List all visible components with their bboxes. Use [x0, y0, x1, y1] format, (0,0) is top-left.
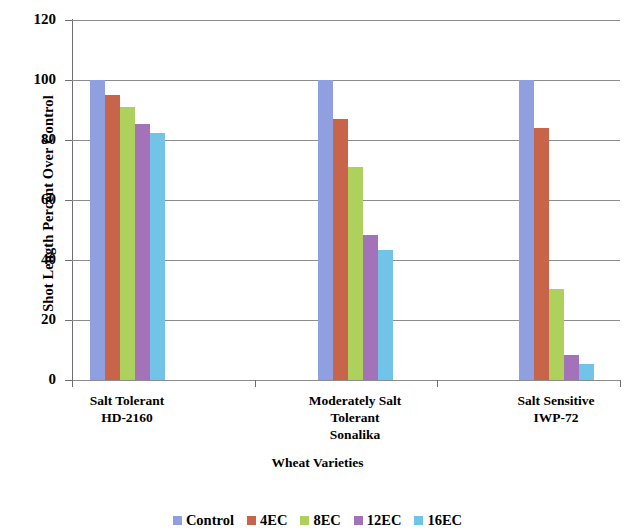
bar	[564, 355, 579, 381]
category-label-line: Salt Sensitive	[471, 392, 635, 409]
x-axis-tick	[72, 380, 73, 387]
legend-swatch	[414, 516, 423, 525]
y-axis-tick-label: 20	[0, 311, 56, 328]
y-axis-tick-label: 120	[0, 11, 56, 28]
category-label-line: HD-2160	[42, 409, 212, 426]
legend-label: 16EC	[427, 512, 462, 529]
legend-swatch	[354, 516, 363, 525]
x-axis-category-label: Salt TolerantHD-2160	[42, 392, 212, 426]
x-axis-tick	[437, 380, 438, 387]
bar	[579, 364, 594, 381]
legend-item: Control	[173, 512, 234, 529]
legend-item: 16EC	[414, 512, 462, 529]
bar-chart-figure: Shot Length Percent Over Control 0204060…	[0, 0, 635, 532]
legend-swatch	[300, 516, 309, 525]
y-axis-tick-label: 80	[0, 131, 56, 148]
plot-area	[72, 20, 620, 380]
y-axis-tick-label: 60	[0, 191, 56, 208]
bar-group	[72, 20, 620, 380]
legend-label: 8EC	[313, 512, 340, 529]
legend-label: 12EC	[367, 512, 402, 529]
legend-item: 4EC	[247, 512, 287, 529]
category-label-line: Sonalika	[270, 426, 440, 443]
bar	[534, 128, 549, 380]
x-axis-category-label: Moderately SaltTolerantSonalika	[270, 392, 440, 443]
legend-swatch	[247, 516, 256, 525]
legend-label: Control	[186, 512, 234, 529]
bar	[549, 289, 564, 381]
category-label-line: Moderately Salt	[270, 392, 440, 409]
x-axis-tick	[255, 380, 256, 387]
legend-swatch	[173, 516, 182, 525]
legend-label: 4EC	[260, 512, 287, 529]
legend-item: 8EC	[300, 512, 340, 529]
category-label-line: Salt Tolerant	[42, 392, 212, 409]
category-label-line: Tolerant	[270, 409, 440, 426]
legend-item: 12EC	[354, 512, 402, 529]
category-label-line: IWP-72	[471, 409, 635, 426]
y-axis-tick-label: 40	[0, 251, 56, 268]
x-axis-tick	[620, 380, 621, 387]
y-axis-tick-label: 0	[0, 371, 56, 388]
x-axis-category-label: Salt SensitiveIWP-72	[471, 392, 635, 426]
bar	[519, 80, 534, 380]
gridline	[72, 380, 620, 381]
x-axis-title: Wheat Varieties	[0, 455, 635, 471]
legend: Control4EC8EC12EC16EC	[0, 512, 635, 529]
y-axis-tick-label: 100	[0, 71, 56, 88]
